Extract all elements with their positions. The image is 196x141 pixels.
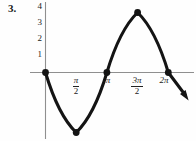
x-tick-three-pi-over-2-denominator: 2: [131, 87, 142, 96]
x-tick-three-pi-over-2-numerator: 3π: [131, 76, 142, 85]
figure-container: 3. 4 3 2 1 π 2 π 3π 2 2π: [0, 0, 196, 141]
x-tick-pi-over-2-numerator: π: [73, 76, 80, 85]
y-tick-4: 4: [30, 1, 42, 11]
point-marker-maximum: [134, 9, 141, 16]
x-tick-pi-over-2: π 2: [68, 76, 84, 97]
y-tick-1: 1: [30, 49, 42, 59]
x-tick-two-pi: 2π: [155, 76, 173, 85]
point-marker-origin: [42, 69, 49, 76]
y-tick-3: 3: [30, 17, 42, 27]
x-tick-pi: π: [102, 76, 114, 85]
x-tick-three-pi-over-2: 3π 2: [126, 76, 148, 97]
point-marker-minimum: [73, 129, 80, 136]
y-tick-2: 2: [30, 33, 42, 43]
x-tick-pi-over-2-denominator: 2: [73, 87, 80, 96]
